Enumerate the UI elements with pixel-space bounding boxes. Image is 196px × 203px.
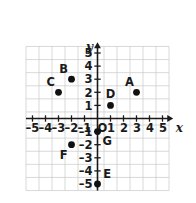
point-label-b: B bbox=[59, 62, 68, 76]
x-tick-label: 5 bbox=[159, 121, 167, 135]
x-tick-label: 4 bbox=[146, 121, 154, 135]
x-tick-label: 2 bbox=[120, 121, 128, 135]
coordinate-plane-figure: –5–4–3–2–112345O54321–1–2–3–4–5 xy ABCDE… bbox=[0, 0, 196, 203]
point-label-c: C bbox=[46, 75, 54, 89]
y-tick-label: 1 bbox=[84, 99, 92, 113]
y-tick-label: –5 bbox=[79, 177, 93, 191]
x-axis-arrowhead bbox=[167, 115, 173, 122]
point-dot-c bbox=[55, 89, 62, 96]
y-tick-label: –4 bbox=[79, 164, 93, 178]
y-axis-arrowhead bbox=[94, 42, 101, 48]
point-label-d: D bbox=[106, 87, 116, 101]
y-tick-label: 3 bbox=[84, 72, 92, 86]
point-dot-b bbox=[68, 76, 75, 83]
x-axis-name: x bbox=[175, 121, 184, 135]
point-d: D bbox=[106, 87, 116, 109]
x-tick-label: –4 bbox=[39, 121, 53, 135]
x-tick-label: –2 bbox=[65, 121, 79, 135]
point-dot-f bbox=[68, 141, 75, 148]
point-label-f: F bbox=[60, 148, 68, 162]
point-dot-d bbox=[107, 102, 114, 109]
coordinate-plane-svg: –5–4–3–2–112345O54321–1–2–3–4–5 xy ABCDE… bbox=[0, 0, 196, 203]
point-dot-g bbox=[94, 128, 101, 135]
x-tick-label: –3 bbox=[52, 121, 66, 135]
y-tick-label: –2 bbox=[79, 138, 93, 152]
x-tick-label: 3 bbox=[133, 121, 141, 135]
point-label-e: E bbox=[103, 167, 111, 181]
y-tick-label: –3 bbox=[79, 151, 93, 165]
point-label-g: G bbox=[103, 134, 112, 148]
point-dot-e bbox=[94, 181, 101, 188]
point-label-a: A bbox=[125, 75, 134, 89]
y-tick-label: 2 bbox=[84, 86, 92, 100]
y-tick-label: –1 bbox=[79, 125, 93, 139]
y-axis-name: y bbox=[85, 40, 94, 54]
point-dot-a bbox=[133, 89, 140, 96]
axes bbox=[26, 42, 173, 190]
x-tick-label: –5 bbox=[26, 121, 40, 135]
y-tick-label: 4 bbox=[84, 59, 92, 73]
